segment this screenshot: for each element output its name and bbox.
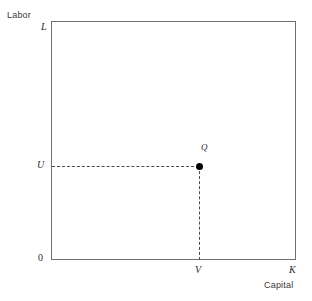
data-point-q <box>196 163 203 170</box>
data-point-label-q: Q <box>201 143 208 152</box>
y-axis-tick-label-u: U <box>37 160 44 170</box>
plot-frame <box>51 21 296 260</box>
y-axis-title: Labor <box>7 11 31 20</box>
origin-label: 0 <box>38 253 43 263</box>
horizontal-dashed-guide <box>52 166 199 167</box>
x-axis-title: Capital <box>264 281 293 290</box>
x-axis-tick-label-v: V <box>195 265 201 275</box>
economics-isoquant-box-figure: Labor Capital L U 0 V K Q <box>0 0 312 301</box>
vertical-dashed-guide <box>199 166 200 260</box>
y-axis-max-label: L <box>41 22 47 32</box>
x-axis-max-label: K <box>289 265 296 275</box>
